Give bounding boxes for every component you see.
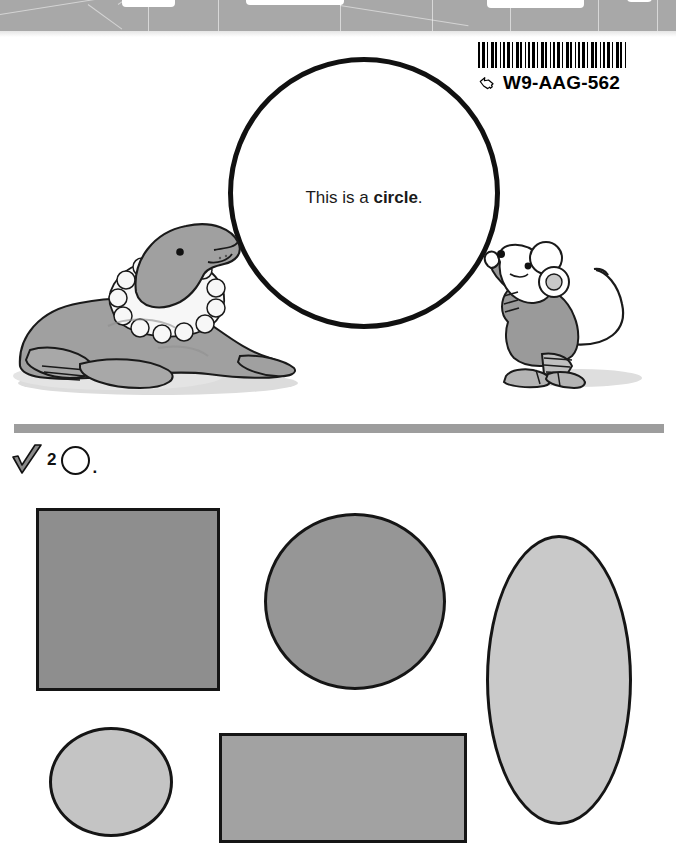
page-edge-scan-artifact	[0, 0, 676, 31]
seal-illustration	[8, 198, 308, 403]
circle-outline-icon	[61, 446, 90, 475]
answer-shape-oval[interactable]	[486, 535, 632, 825]
hand-pointer-icon	[478, 74, 496, 92]
section-divider	[14, 424, 664, 433]
answer-shape-small-circle[interactable]	[49, 727, 173, 837]
scan-notch	[122, 0, 175, 7]
answer-shape-circle[interactable]	[264, 513, 446, 690]
caption-bold-word: circle	[373, 188, 417, 207]
exercise-period: .	[92, 458, 97, 478]
barcode-code-text: W9-AAG-562	[503, 72, 620, 94]
scan-band-fade	[0, 31, 676, 37]
exercise-prompt: 2 .	[10, 438, 97, 482]
worksheet-page: W9-AAG-562 This is a circle.	[0, 0, 676, 868]
answer-shape-rectangle[interactable]	[219, 733, 467, 843]
caption-prefix: This is a	[305, 188, 373, 207]
answer-shape-square[interactable]	[36, 508, 220, 691]
caption-suffix: .	[418, 188, 423, 207]
scan-notch	[246, 0, 344, 5]
barcode-stripes	[478, 42, 628, 68]
mouse-illustration	[470, 238, 675, 403]
exercise-number: 2	[47, 450, 56, 470]
checkmark-icon	[10, 443, 44, 477]
barcode-block: W9-AAG-562	[478, 42, 630, 94]
scan-notch	[487, 0, 584, 8]
scan-notch	[627, 0, 652, 2]
